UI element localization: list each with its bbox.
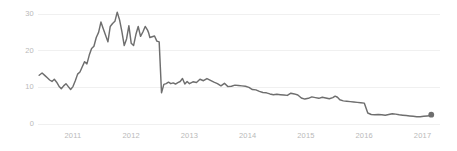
chart-plot-area [0,0,457,151]
end-point-marker [428,112,434,118]
last-value-dot [428,112,434,118]
x-tick-label-2017: 2017 [403,132,443,140]
x-tick-label-2012: 2012 [111,132,151,140]
y-tick-label-20: 20 [14,47,34,55]
series-line-value [39,12,431,117]
y-tick-label-30: 30 [14,10,34,18]
x-tick-label-2013: 2013 [169,132,209,140]
line-chart: 0102030 2011201220132014201520162017 [0,0,457,151]
x-tick-label-2011: 2011 [53,132,93,140]
x-tick-label-2015: 2015 [286,132,326,140]
y-tick-label-0: 0 [14,120,34,128]
data-series-group [39,12,431,117]
x-tick-label-2014: 2014 [228,132,268,140]
y-tick-label-10: 10 [14,83,34,91]
x-tick-label-2016: 2016 [344,132,384,140]
